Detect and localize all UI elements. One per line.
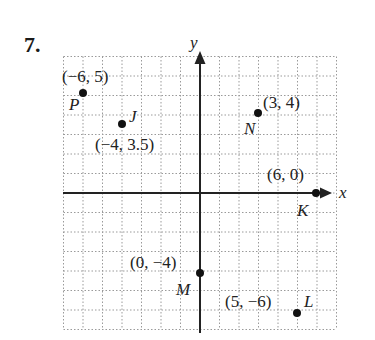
point-N	[254, 109, 262, 117]
point-P-name: P	[68, 95, 79, 114]
point-K	[312, 189, 320, 197]
point-L-name: L	[303, 292, 313, 311]
point-M-name: M	[175, 280, 191, 299]
point-L-coord-label: (5, −6)	[225, 292, 271, 311]
point-J-name: J	[129, 107, 138, 126]
x-axis-arrow-icon	[320, 188, 332, 199]
point-L	[293, 309, 301, 317]
point-M	[196, 269, 204, 277]
y-axis-arrow-icon	[195, 51, 206, 64]
point-K-name: K	[296, 201, 310, 220]
point-P	[79, 89, 87, 97]
point-J-coord-label: (−4, 3.5)	[95, 135, 154, 154]
y-axis-label: y	[188, 33, 198, 52]
coordinate-plane: x y (−6, 5) P J (−4, 3.5) (3, 4) N (6, 0…	[0, 0, 375, 340]
point-N-name: N	[243, 119, 257, 138]
x-axis-label: x	[338, 183, 347, 202]
point-K-coord-label: (6, 0)	[267, 165, 304, 184]
point-P-coord-label: (−6, 5)	[62, 67, 108, 86]
point-M-coord-label: (0, −4)	[130, 253, 176, 272]
point-N-coord-label: (3, 4)	[263, 93, 300, 112]
point-J	[118, 120, 126, 128]
